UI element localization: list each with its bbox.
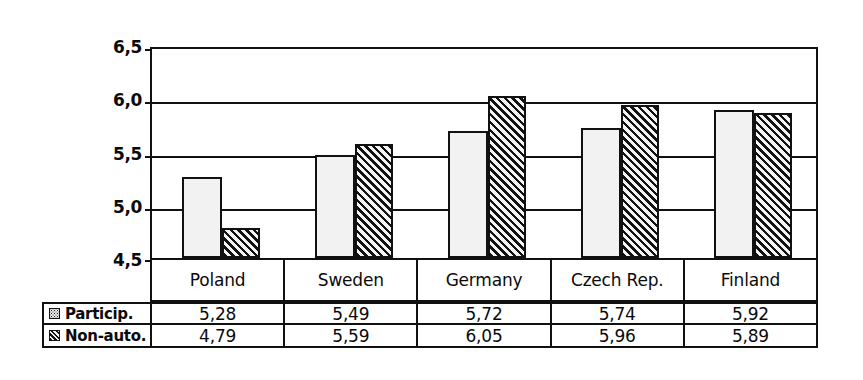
cell-particip-czech-rep: 5,74 <box>552 304 685 323</box>
y-tick-label-6-5: 6,5 <box>113 37 142 57</box>
bar-finland-particip <box>714 110 754 258</box>
cell-nonauto-germany: 6,05 <box>418 325 551 346</box>
bar-poland-nonauto <box>222 228 260 258</box>
y-tick-label-5-0: 5,0 <box>113 197 142 217</box>
bar-germany-nonauto <box>488 96 526 258</box>
category-label-czech-rep: Czech Rep. <box>552 260 685 300</box>
bar-germany-particip <box>448 131 488 258</box>
hatched-square-icon <box>49 330 60 341</box>
legend-label-nonauto: Non-auto. <box>65 327 146 345</box>
y-tick-label-4-5: 4,5 <box>113 250 142 270</box>
bar-czech-rep-particip <box>581 128 621 258</box>
category-label-sweden: Sweden <box>285 260 418 300</box>
table-row-nonauto: Non-auto. 4,79 5,59 6,05 5,96 5,89 <box>44 325 816 346</box>
cell-nonauto-finland: 5,89 <box>685 325 816 346</box>
bar-sweden-nonauto <box>355 144 393 258</box>
table-row-particip: Particip. 5,28 5,49 5,72 5,74 5,92 <box>44 304 816 325</box>
cell-nonauto-sweden: 5,59 <box>285 325 418 346</box>
bar-chart-figure: 6,5 6,0 5,5 5,0 4,5 Poland <box>0 0 863 380</box>
legend-cell-particip: Particip. <box>44 304 152 323</box>
legend-cell-nonauto: Non-auto. <box>44 325 152 346</box>
category-label-germany: Germany <box>418 260 551 300</box>
gridline-6-0 <box>152 102 816 104</box>
y-tick-label-5-5: 5,5 <box>113 144 142 164</box>
bar-czech-rep-nonauto <box>621 105 659 258</box>
data-table: Particip. 5,28 5,49 5,72 5,74 5,92 Non-a… <box>42 302 818 348</box>
dotted-square-icon <box>49 308 60 319</box>
cell-particip-poland: 5,28 <box>152 304 285 323</box>
category-label-finland: Finland <box>685 260 816 300</box>
cell-particip-finland: 5,92 <box>685 304 816 323</box>
bar-poland-particip <box>182 177 222 259</box>
y-axis-labels: 6,5 6,0 5,5 5,0 4,5 <box>78 47 142 260</box>
plot-area <box>150 47 818 260</box>
cell-particip-germany: 5,72 <box>418 304 551 323</box>
bar-sweden-particip <box>315 155 355 258</box>
bar-finland-nonauto <box>754 113 792 258</box>
y-tick-label-6-0: 6,0 <box>113 90 142 110</box>
cell-nonauto-poland: 4,79 <box>152 325 285 346</box>
y-tick-mark-6-0 <box>145 102 152 104</box>
category-label-poland: Poland <box>152 260 285 300</box>
y-tick-mark-5-0 <box>145 209 152 211</box>
cell-nonauto-czech-rep: 5,96 <box>552 325 685 346</box>
legend-label-particip: Particip. <box>65 305 133 323</box>
cell-particip-sweden: 5,49 <box>285 304 418 323</box>
y-tick-mark-6-5 <box>145 49 152 51</box>
category-axis-row: Poland Sweden Germany Czech Rep. Finland <box>150 260 818 302</box>
y-tick-mark-5-5 <box>145 156 152 158</box>
